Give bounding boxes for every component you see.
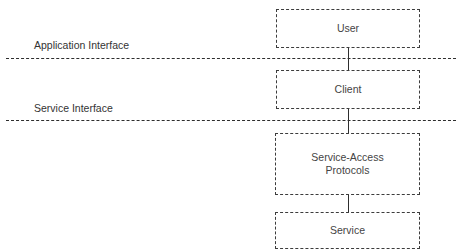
client-box-label: Client [335,83,362,96]
client-box: Client [276,70,420,109]
connector-user-client [348,48,349,70]
application-interface-line [6,58,456,59]
connector-client-protocols [348,109,349,133]
service-interface-label: Service Interface [34,102,113,114]
service-interface-line [6,120,456,121]
connector-protocols-service [348,195,349,212]
service-box: Service [275,212,420,249]
service-access-protocols-box: Service-Access Protocols [275,133,420,195]
protocols-box-label-line2: Protocols [326,164,370,177]
user-box: User [276,9,420,48]
protocols-box-label-line1: Service-Access [311,151,383,164]
application-interface-label: Application Interface [34,39,129,51]
service-box-label: Service [330,224,365,237]
user-box-label: User [337,22,359,35]
